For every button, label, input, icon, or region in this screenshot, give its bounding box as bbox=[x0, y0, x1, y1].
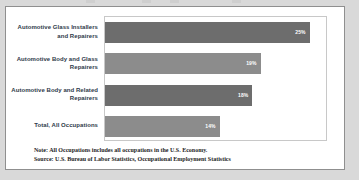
bar: 14% bbox=[105, 116, 220, 137]
bar-value-label: 14% bbox=[205, 124, 219, 129]
bar: 25% bbox=[105, 22, 310, 43]
category-label: Automotive Body and Glass Repairers bbox=[6, 47, 98, 78]
chart-footnotes: Note: All Occupations includes all occup… bbox=[34, 146, 334, 165]
category-label: Automotive Glass Installers and Repairer… bbox=[6, 16, 98, 47]
category-label: Automotive Body and Related Repairers bbox=[6, 79, 98, 110]
plot-area: 25% 19% 18% 14% bbox=[104, 16, 327, 141]
bar-row: 25% bbox=[105, 17, 326, 48]
bar-value-label: 19% bbox=[246, 61, 260, 66]
crop-mark bbox=[232, 0, 241, 3]
footnote-note: Note: All Occupations includes all occup… bbox=[34, 146, 334, 155]
category-axis-labels: Automotive Glass Installers and Repairer… bbox=[6, 16, 102, 141]
crop-mark bbox=[86, 0, 95, 3]
category-label: Total, All Occupations bbox=[6, 110, 98, 141]
bar-row: 14% bbox=[105, 111, 326, 142]
bar: 18% bbox=[105, 85, 252, 106]
bar-row: 18% bbox=[105, 80, 326, 111]
bar-row: 19% bbox=[105, 48, 326, 79]
bar-value-label: 25% bbox=[295, 30, 309, 35]
crop-mark bbox=[170, 0, 179, 3]
footnote-source: Source: U.S. Bureau of Labor Statistics,… bbox=[34, 155, 334, 164]
bar: 19% bbox=[105, 53, 261, 74]
bar-value-label: 18% bbox=[238, 93, 252, 98]
bar-chart: Automotive Glass Installers and Repairer… bbox=[6, 7, 344, 169]
crop-mark bbox=[142, 0, 151, 3]
crop-marks bbox=[0, 0, 359, 5]
chart-figure-frame: Automotive Glass Installers and Repairer… bbox=[5, 6, 345, 170]
